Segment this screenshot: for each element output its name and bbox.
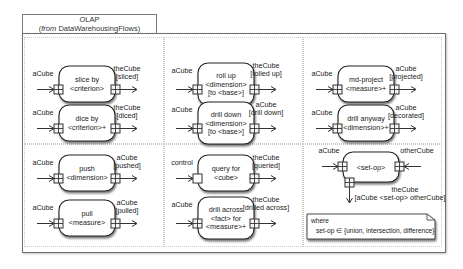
input-cube-pin-icon (333, 85, 342, 94)
output-cube-pin-icon (250, 219, 259, 228)
input-cube-pin-icon (54, 174, 63, 183)
output-arrow (120, 221, 137, 227)
note-line: set-op ∈ {union, intersection, differenc… (316, 227, 435, 235)
output-arrow (259, 87, 276, 93)
output-arrow (120, 176, 137, 182)
output-arrow (347, 187, 353, 203)
input-arrow (404, 164, 421, 170)
output-cube-pin-icon (390, 85, 399, 94)
input-label: aCube (32, 203, 53, 212)
output-label: [diced] (116, 111, 137, 120)
input-cube-pin-icon (193, 85, 202, 94)
action-label: <set-op> (357, 163, 385, 172)
action-drillanyway: drill anyway<dimension>+aCubeaCube[decor… (311, 103, 424, 141)
input-label: control (171, 158, 193, 167)
output-label: [sliced] (116, 72, 138, 81)
input-label: aCube (171, 105, 192, 114)
action-label: [to <base>] (208, 88, 244, 97)
input-cube-pin-icon (193, 219, 202, 228)
output-label: [projected] (389, 72, 423, 81)
output-arrow (120, 126, 137, 132)
action-mdproject: md-project<measure>+aCubeaCube[projected… (311, 64, 422, 102)
input-cube-pin-icon (54, 124, 63, 133)
input-arrow (37, 126, 54, 132)
input-cube-pin-icon (395, 162, 404, 171)
action-slice: slice by<criterion>aCubetheCube[sliced] (32, 64, 140, 102)
action-rollup: roll up<dimension>[to <base>]aCubetheCub… (171, 61, 281, 105)
input-label: aCube (171, 66, 192, 75)
action-push: push<dimension>aCubeaCube[pushed] (32, 153, 140, 191)
input-arrow (37, 176, 54, 182)
output-cube-pin-icon (111, 124, 120, 133)
input-cube-pin-icon (193, 124, 202, 133)
output-cube-pin-icon (111, 219, 120, 228)
action-label: <measure>+ (346, 84, 387, 93)
action-drilldown: drill down<dimension>[to <base>]aCubeaCu… (171, 100, 283, 144)
input-label: aCube (32, 108, 53, 117)
input-label: aCube (318, 146, 339, 155)
output-cube-pin-icon (250, 124, 259, 133)
input-arrow (176, 221, 193, 227)
output-label: [queried] (252, 161, 280, 170)
input-label: aCube (311, 108, 332, 117)
input-arrow (37, 221, 54, 227)
output-label: [rolled up] (250, 69, 282, 78)
input-arrow (316, 126, 333, 132)
action-label: <dimension> (66, 173, 107, 182)
input-arrow (322, 164, 338, 170)
output-cube-pin-icon (390, 124, 399, 133)
action-label: <measure>+ (206, 222, 247, 231)
action-label: [to <base>] (208, 127, 244, 136)
input-cube-pin-icon (54, 219, 63, 228)
action-label: <criterion> (70, 84, 104, 93)
input-arrow (37, 87, 54, 93)
action-pull: pull<measure>aCubeaCube[pulled] (32, 198, 138, 236)
input-label: aCube (32, 158, 53, 167)
output-arrow (120, 87, 137, 93)
note-line: where (310, 217, 329, 224)
action-label: <measure> (69, 218, 105, 227)
action-label: <criterion>+ (68, 123, 106, 132)
output-label: [pushed] (113, 161, 141, 170)
action-dice: dice by<criterion>+aCubetheCube[diced] (32, 103, 140, 141)
input-cube-pin-icon (333, 124, 342, 133)
input-arrow (316, 87, 333, 93)
input-label: aCube (32, 69, 53, 78)
output-cube-pin-icon (345, 178, 354, 187)
output-label: [drill down] (249, 108, 283, 117)
output-cube-pin-icon (111, 85, 120, 94)
action-label: <cube> (214, 173, 238, 182)
input-arrow (176, 126, 193, 132)
output-cube-pin-icon (250, 85, 259, 94)
input-label: otherCube (400, 146, 434, 155)
action-label: <dimension>+ (343, 123, 388, 132)
input-label: aCube (311, 69, 332, 78)
olap-diagram: slice by<criterion>aCubetheCube[sliced]d… (0, 0, 463, 269)
input-label: aCube (171, 200, 192, 209)
output-arrow (259, 221, 276, 227)
constraint-note: whereset-op ∈ {union, intersection, diff… (307, 214, 435, 239)
output-label: [aCube <set-op> otherCube] (354, 193, 445, 202)
output-label: [drilled across] (243, 203, 289, 212)
action-query: query for<cube>controltheCube[queried] (171, 153, 280, 191)
input-cube-pin-icon (338, 162, 347, 171)
output-cube-pin-icon (111, 174, 120, 183)
output-arrow (399, 87, 416, 93)
input-arrow (176, 87, 193, 93)
input-cube-pin-icon (54, 85, 63, 94)
input-arrow (176, 176, 193, 182)
output-arrow (259, 176, 276, 182)
output-arrow (399, 126, 416, 132)
output-cube-pin-icon (250, 174, 259, 183)
action-drillacross: drill across<fact> for<measure>+aCubethe… (171, 195, 289, 239)
output-label: [pulled] (115, 206, 138, 215)
action-setop: <set-op>aCubeotherCubetheCube[aCube <set… (318, 146, 445, 203)
output-label: [decorated] (388, 111, 424, 120)
output-arrow (259, 126, 276, 132)
control-pin (193, 174, 202, 183)
